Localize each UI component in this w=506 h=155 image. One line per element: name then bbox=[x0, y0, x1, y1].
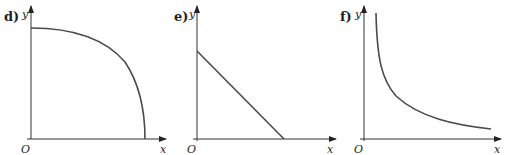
graph-d: d) y O x bbox=[4, 6, 167, 155]
graph-e-label: e) bbox=[174, 9, 188, 24]
graph-f-curve bbox=[376, 13, 491, 129]
graph-f-label: f) bbox=[340, 9, 352, 24]
graph-f-origin-label: O bbox=[354, 143, 363, 155]
graph-e-x-label: x bbox=[327, 143, 334, 155]
graph-f: f) y O x bbox=[340, 6, 501, 155]
graph-e: e) y O x bbox=[174, 6, 336, 155]
graphs-figure: d) y O x e) y O x f) y O x bbox=[0, 0, 506, 155]
graph-d-x-label: x bbox=[160, 143, 167, 155]
graph-f-x-label: x bbox=[494, 143, 501, 155]
graph-e-line bbox=[197, 51, 284, 139]
graph-d-label: d) bbox=[4, 9, 19, 24]
graph-f-y-label: y bbox=[354, 8, 362, 21]
graph-e-origin-label: O bbox=[187, 143, 196, 155]
graph-d-curve bbox=[31, 28, 145, 139]
graph-d-origin-label: O bbox=[21, 143, 30, 155]
graph-e-y-label: y bbox=[188, 8, 196, 21]
graph-d-y-label: y bbox=[21, 8, 29, 21]
